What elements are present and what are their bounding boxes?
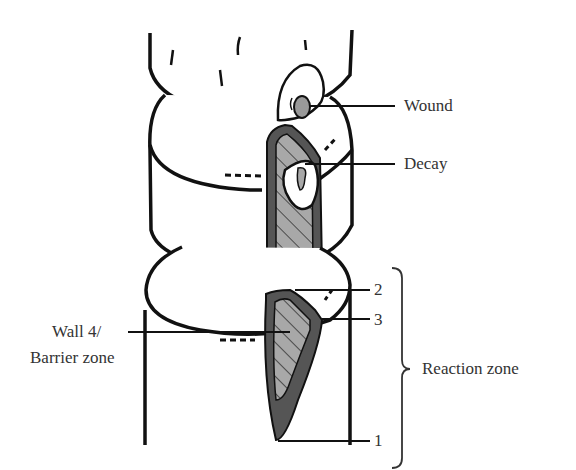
label-wall-4: Wall 4/ (52, 322, 101, 341)
reaction-zone-brace (392, 268, 410, 468)
codit-diagram: Wound Decay 2 3 1 Wall 4/ Barrier zone R… (0, 0, 576, 470)
label-wound: Wound (404, 96, 453, 115)
bottom-trunk-segment (145, 247, 350, 445)
label-wall-3: 3 (374, 310, 383, 329)
label-decay: Decay (404, 154, 448, 173)
label-reaction-zone: Reaction zone (422, 359, 519, 378)
lower-decay-wedge (265, 290, 322, 440)
label-wall-1: 1 (374, 431, 383, 450)
label-wall-2: 2 (374, 280, 383, 299)
label-barrier-zone: Barrier zone (30, 348, 114, 367)
